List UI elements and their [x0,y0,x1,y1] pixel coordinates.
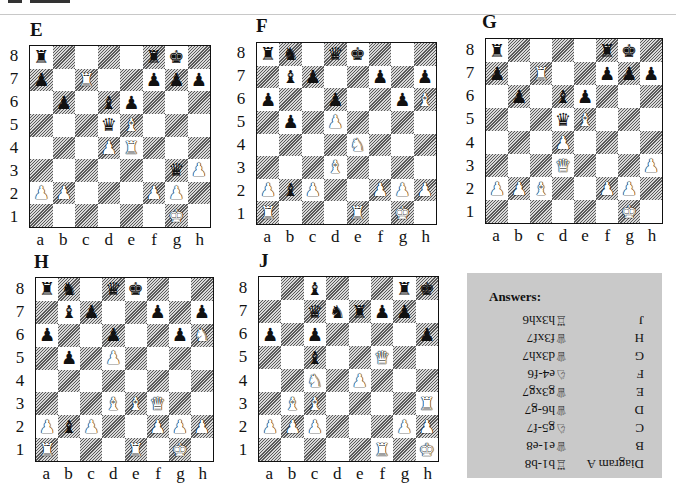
square-e4: ♞ [347,134,369,157]
file-label: h [188,230,211,250]
square-a1 [486,200,508,223]
black-pawn-icon: ♟ [307,326,323,344]
square-a8: ♜ [257,43,279,66]
square-g1: ♚ [169,438,191,461]
square-b4 [281,369,303,392]
white-pawn-icon: ♟ [39,418,55,436]
file-labels: abcdefgh [29,230,211,250]
square-a7 [257,66,279,89]
rank-label: 3 [232,156,250,179]
square-a3 [36,392,58,415]
black-pawn-icon: ♟ [56,94,72,112]
square-a5 [259,346,281,369]
black-pawn-icon: ♟ [419,326,435,344]
square-a7 [259,300,281,323]
white-pawn-icon: ♟ [555,134,571,152]
rank-label: 2 [461,178,479,201]
square-c8 [80,278,102,301]
square-b3 [508,154,530,177]
square-b7: ♝ [58,301,80,324]
file-label: f [143,230,166,250]
black-bishop-icon: ♝ [307,280,323,298]
square-f5 [147,347,169,370]
black-pawn-icon: ♟ [305,68,321,86]
square-g4 [618,131,640,154]
square-a8 [259,277,281,300]
square-a2: ♟ [30,182,53,205]
chessboard: ♜♞♛♚♝♟♟♟♟♟♟♝♟♟♞♝♟♝♟♟♟♟♜♜♚ [256,42,437,225]
square-d7 [102,301,124,324]
square-a1 [30,204,53,227]
file-label: d [326,464,349,484]
square-a5 [486,108,508,131]
rank-label: 1 [461,201,479,224]
square-d5 [326,346,348,369]
white-knight-icon: ♞ [350,136,366,154]
answers-list-upside-down: Diagram A♖b1-b8B♕e1-e8C♘g5-f7D♕h6-g7E♕g3… [467,311,662,473]
square-f3 [143,159,166,182]
square-g4 [393,369,415,392]
file-label: g [169,464,191,484]
square-e6: ♟ [574,85,596,108]
square-d1 [98,204,121,227]
square-b8: ♞ [58,278,80,301]
rank-label: 1 [11,439,29,462]
file-label: c [530,226,552,246]
square-c6 [75,91,98,114]
square-d3 [98,159,121,182]
answer-row: Diagram A♖b1-b8 [467,455,662,473]
square-c6 [302,88,324,111]
black-pawn-icon: ♟ [194,303,210,321]
square-f2: ♟ [596,177,618,200]
answer-move: ♕h6-g7 [467,402,567,418]
square-g5 [393,346,415,369]
square-f4 [143,137,166,160]
square-c5 [75,114,98,137]
square-a7: ♟ [30,69,53,92]
square-g8: ♜ [393,277,415,300]
rank-label: 2 [232,179,250,202]
rank-label: 6 [11,323,29,346]
black-king-icon: ♚ [168,48,184,66]
square-c4: ♞ [304,369,326,392]
square-e3: ♝ [125,392,147,415]
white-knight-icon: ♞ [307,372,323,390]
square-b1 [53,204,76,227]
answer-row: J♖h3xh6 [467,311,662,329]
rank-label: 8 [461,38,479,61]
square-f5 [369,111,391,134]
square-a2: ♟ [36,415,58,438]
rank-label: 5 [461,108,479,131]
black-pawn-icon: ♟ [374,303,390,321]
rank-label: 3 [461,154,479,177]
square-b3 [58,392,80,415]
white-pawn-icon: ♟ [262,418,278,436]
square-e4 [125,370,147,393]
square-d4 [324,134,346,157]
square-b2: ♝ [279,179,301,202]
white-pawn-icon: ♟ [396,418,412,436]
file-labels: abcdefgh [485,226,663,246]
square-f2 [371,415,393,438]
rank-label: 6 [5,91,23,114]
square-e2 [347,179,369,202]
square-c7: ♛ [304,300,326,323]
square-b8 [53,46,76,69]
square-c5 [80,347,102,370]
rank-label: 2 [5,182,23,205]
rank-label: 4 [232,134,250,157]
square-g6 [165,91,188,114]
black-rook-icon: ♜ [396,280,412,298]
rank-label: 8 [5,45,23,68]
file-label: a [485,226,507,246]
chessboard: ♜♜♚♟♜♟♟♟♟♝♟♛♝♟♛♟♟♟♝♟♟♚ [485,38,663,224]
square-f2: ♟ [369,179,391,202]
square-h3: ♜ [416,392,438,415]
square-g7 [391,66,413,89]
answer-move: ♕g3xg7 [467,384,567,400]
square-a7 [36,301,58,324]
square-g2: ♟ [618,177,640,200]
file-label: f [596,226,618,246]
black-pawn-icon: ♟ [643,65,659,83]
square-e5: ♝ [574,108,596,131]
